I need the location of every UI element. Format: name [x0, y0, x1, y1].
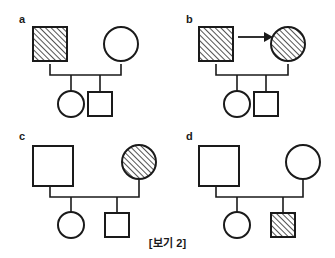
panel-label-a: a — [19, 14, 25, 25]
panel-a-graphics — [33, 27, 138, 117]
panel-d-father-square — [199, 146, 239, 186]
panel-label-d: d — [186, 131, 193, 142]
panel-b-transmission-arrow — [238, 32, 273, 42]
panel-label-c: c — [19, 131, 25, 142]
panel-a-son-square — [88, 92, 112, 116]
panel-b-son-square — [254, 92, 278, 116]
pedigree-canvas — [0, 0, 335, 258]
panel-b-graphics — [199, 27, 305, 117]
panel-b-marriage-line — [216, 64, 288, 75]
panel-c-mother-circle-affected — [122, 145, 156, 179]
panel-d-graphics — [199, 145, 320, 238]
panel-a-mother-circle — [104, 27, 138, 61]
panel-a-father-square-affected — [33, 27, 67, 61]
panel-c-father-square — [33, 146, 73, 186]
panel-d-mother-circle — [286, 145, 320, 179]
panel-b-daughter-circle — [224, 91, 250, 117]
panel-c-graphics — [33, 145, 156, 238]
panel-b-mother-circle-affected — [271, 27, 305, 61]
pedigree-figure: a b c d [보기 2] — [0, 0, 335, 258]
panel-a-daughter-circle — [58, 91, 84, 117]
panel-b-father-square-affected — [199, 27, 233, 61]
panel-label-b: b — [186, 14, 193, 25]
figure-caption: [보기 2] — [0, 234, 335, 250]
panel-a-marriage-line — [50, 64, 121, 75]
